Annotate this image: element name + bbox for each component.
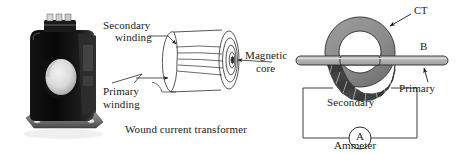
core-ring-2 — [223, 38, 238, 82]
magnetic-core-label-line1: Magnetic — [245, 50, 287, 62]
primary-winding-leader-vee — [112, 74, 142, 83]
secondary-winding-label-line1: Secondary — [103, 20, 150, 32]
primary-winding-label-line1: Primary — [103, 86, 139, 98]
coil-left-face-back — [171, 32, 177, 92]
ct-photograph — [23, 14, 103, 139]
primary-label: Primary — [399, 83, 435, 95]
figure-current-transformers: Secondary winding Primary winding Magnet… — [0, 0, 456, 154]
ammeter-label: Ammeter — [334, 140, 376, 152]
secondary-label: Secondary — [327, 97, 374, 109]
wound-ct-caption: Wound current transformer — [125, 124, 247, 136]
bus-terminal-label: B — [420, 41, 427, 53]
primary-winding-label-line2: winding — [103, 99, 140, 111]
secondary-winding-leader — [148, 36, 176, 44]
ct-label: CT — [414, 5, 428, 16]
coil-bottom-edge — [171, 90, 221, 92]
coil-top-edge — [174, 30, 222, 32]
primary-label-leader — [424, 68, 428, 82]
magnetic-core-label-line2: core — [256, 63, 275, 75]
ct-label-leader — [390, 14, 411, 26]
ct-toroid-window — [339, 31, 381, 73]
secondary-winding-label-line2: winding — [115, 32, 152, 44]
aperture-window — [46, 59, 77, 95]
core-center — [231, 57, 234, 64]
